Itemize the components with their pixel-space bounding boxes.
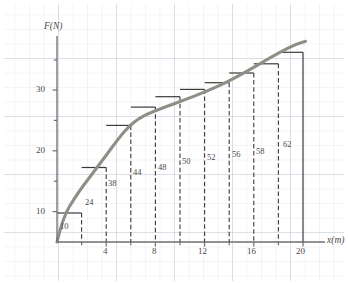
y-tick-label-10: 10 <box>36 207 45 216</box>
force-position-chart-figure: F(N) x(m) 30 20 10 4 8 12 16 20 10 24 38… <box>0 0 348 285</box>
y-tick-label-30: 30 <box>36 85 45 94</box>
step-label-50: 50 <box>182 157 191 166</box>
riemann-step-bars <box>57 52 303 242</box>
step-label-38: 38 <box>108 179 117 188</box>
step-label-58: 58 <box>256 147 265 156</box>
x-tick-label-4: 4 <box>103 247 108 256</box>
x-axis-ticks <box>82 242 303 247</box>
x-tick-label-20: 20 <box>296 247 305 256</box>
x-tick-label-16: 16 <box>247 247 256 256</box>
step-label-62: 62 <box>283 140 292 149</box>
x-axis-title: x(m) <box>327 236 344 246</box>
x-tick-label-12: 12 <box>198 247 207 256</box>
step-label-48: 48 <box>158 163 167 172</box>
y-axis-ticks <box>53 60 58 212</box>
x-tick-label-8: 8 <box>152 247 157 256</box>
y-tick-label-20: 20 <box>36 146 45 155</box>
step-label-52: 52 <box>207 153 216 162</box>
y-axis-title: F(N) <box>44 22 62 32</box>
step-label-56: 56 <box>232 150 241 159</box>
step-label-24: 24 <box>85 198 94 207</box>
plot-drawing-layer <box>0 0 348 285</box>
step-label-44: 44 <box>133 168 142 177</box>
force-curve <box>57 41 306 242</box>
step-label-10: 10 <box>60 222 69 231</box>
step-bar-52 <box>205 83 230 242</box>
